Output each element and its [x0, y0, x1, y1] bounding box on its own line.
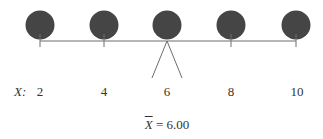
ball-6 [153, 11, 182, 40]
value-label-4: 4 [101, 85, 108, 98]
mean-value: = 6.00 [153, 117, 190, 132]
mean-label: X = 6.00 [145, 118, 190, 131]
axis-label: X: [14, 85, 26, 98]
fulcrum-icon [152, 41, 182, 78]
mean-symbol: X [145, 117, 153, 132]
value-label-8: 8 [228, 85, 235, 98]
value-label-6: 6 [164, 85, 171, 98]
value-label-10: 10 [291, 85, 304, 98]
value-label-2: 2 [37, 85, 44, 98]
